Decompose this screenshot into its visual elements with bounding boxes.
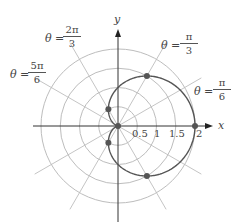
fraction-numerator: π (180, 31, 198, 44)
tick-label-2: 2 (196, 128, 202, 139)
radial-line (35, 78, 118, 126)
angle-label-pi-6-prefix: θ = (194, 85, 213, 98)
curve-point (105, 140, 111, 146)
angle-label-2pi-3-fraction: 2π 3 (63, 24, 81, 49)
fraction-numerator: 2π (63, 24, 81, 37)
x-axis-label: x (218, 119, 224, 132)
fraction-denominator: 3 (63, 37, 81, 49)
fraction-numerator: 5π (28, 60, 46, 73)
axes (33, 29, 213, 222)
angle-label-pi-3-fraction: π 3 (180, 31, 198, 56)
x-axis-arrow-icon (205, 123, 213, 129)
angle-label-pi-6-fraction: π 6 (213, 77, 231, 102)
tick-label-1-5: 1.5 (169, 128, 185, 139)
angle-label-5pi-6-fraction: 5π 6 (28, 60, 46, 85)
fraction-denominator: 3 (180, 44, 198, 56)
curve-point (144, 173, 150, 179)
y-axis-arrow-icon (115, 29, 121, 37)
angle-label-2pi-3-prefix: θ = (45, 32, 64, 45)
fraction-numerator: π (213, 77, 231, 90)
curve-point (144, 73, 150, 79)
y-axis-label: y (114, 13, 120, 26)
tick-label-0-5: 0.5 (132, 128, 148, 139)
angle-label-5pi-6-prefix: θ = (10, 68, 29, 81)
radial-line (70, 126, 118, 209)
polar-plot (0, 0, 239, 222)
curve-point (115, 123, 121, 129)
fraction-denominator: 6 (28, 73, 46, 85)
radial-line (35, 126, 118, 174)
angle-label-pi-3-prefix: θ = (161, 39, 180, 52)
radial-line (118, 43, 166, 126)
fraction-denominator: 6 (213, 90, 231, 102)
curve-point (105, 106, 111, 112)
tick-label-1: 1 (154, 128, 160, 139)
radial-line (70, 43, 118, 126)
